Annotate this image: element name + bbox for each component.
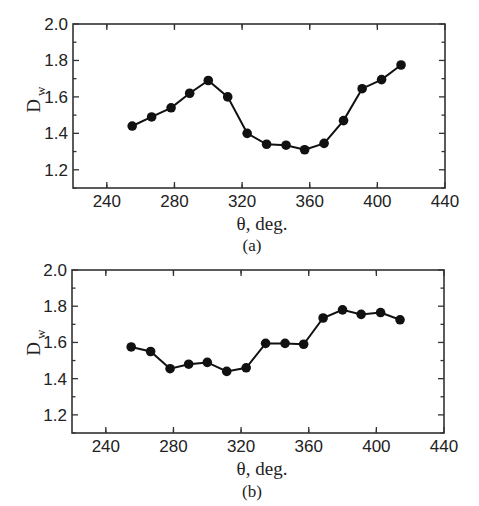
data-point-marker bbox=[146, 347, 156, 357]
data-point-marker bbox=[222, 367, 232, 377]
data-point-marker bbox=[356, 310, 366, 320]
x-tick-label: 240 bbox=[93, 192, 121, 211]
x-tick-label: 320 bbox=[228, 192, 256, 211]
data-point-marker bbox=[127, 121, 137, 131]
data-point-marker bbox=[202, 358, 212, 368]
y-tick-label: 1.2 bbox=[44, 161, 68, 180]
panel-a-label: (a) bbox=[243, 236, 262, 255]
data-point-marker bbox=[242, 129, 252, 139]
x-tick-label: 400 bbox=[362, 437, 390, 456]
data-point-marker bbox=[281, 140, 291, 150]
figure: 2402803203604004401.21.41.61.82.0 240280… bbox=[0, 0, 479, 506]
panel-a-y-axis-title-sub: w bbox=[33, 86, 48, 96]
x-tick-label: 360 bbox=[296, 192, 324, 211]
data-point-marker bbox=[261, 339, 271, 349]
data-point-marker bbox=[280, 339, 290, 349]
data-point-marker bbox=[376, 308, 386, 318]
data-point-marker bbox=[319, 139, 329, 149]
y-tick-label: 1.8 bbox=[43, 297, 67, 316]
x-tick-label: 240 bbox=[92, 437, 120, 456]
data-point-marker bbox=[396, 60, 406, 70]
panel-b-chart: 2402803203604004401.21.41.61.82.0 bbox=[43, 261, 458, 456]
panel-b-y-axis-title-main: D bbox=[23, 342, 44, 356]
panel-b-y-axis-title-sub: w bbox=[33, 329, 48, 339]
data-point-marker bbox=[165, 364, 175, 374]
plot-frame bbox=[73, 24, 445, 188]
data-point-marker bbox=[299, 339, 309, 349]
data-point-marker bbox=[184, 359, 194, 369]
y-tick-label: 1.4 bbox=[44, 124, 68, 143]
y-tick-label: 1.2 bbox=[43, 406, 67, 425]
data-point-marker bbox=[147, 112, 157, 122]
y-tick-label: 1.4 bbox=[43, 370, 67, 389]
data-point-marker bbox=[338, 305, 348, 315]
data-point-marker bbox=[203, 76, 213, 86]
data-point-marker bbox=[262, 139, 272, 149]
data-point-marker bbox=[377, 75, 387, 85]
x-tick-label: 440 bbox=[430, 437, 458, 456]
y-tick-label: 2.0 bbox=[43, 261, 67, 280]
x-tick-label: 360 bbox=[295, 437, 323, 456]
x-tick-label: 440 bbox=[431, 192, 459, 211]
panel-a-y-axis-title-main: D bbox=[23, 99, 44, 113]
data-point-marker bbox=[339, 116, 349, 126]
data-point-marker bbox=[300, 145, 310, 155]
y-tick-label: 2.0 bbox=[44, 15, 68, 34]
x-tick-label: 320 bbox=[227, 437, 255, 456]
data-point-marker bbox=[166, 103, 176, 113]
data-point-marker bbox=[318, 313, 328, 323]
data-point-marker bbox=[126, 342, 136, 352]
panel-b-x-axis-title: θ, deg. bbox=[237, 458, 288, 479]
panel-b-label: (b) bbox=[242, 482, 262, 501]
data-point-marker bbox=[357, 84, 367, 94]
panel-a-chart: 2402803203604004401.21.41.61.82.0 bbox=[44, 15, 459, 211]
data-point-marker bbox=[185, 88, 195, 98]
y-tick-label: 1.8 bbox=[44, 51, 68, 70]
x-tick-label: 280 bbox=[160, 192, 188, 211]
data-point-marker bbox=[223, 92, 233, 102]
x-tick-label: 400 bbox=[363, 192, 391, 211]
data-point-marker bbox=[241, 363, 251, 373]
x-tick-label: 280 bbox=[159, 437, 187, 456]
panel-a-x-axis-title: θ, deg. bbox=[237, 213, 288, 234]
data-point-marker bbox=[395, 315, 405, 325]
